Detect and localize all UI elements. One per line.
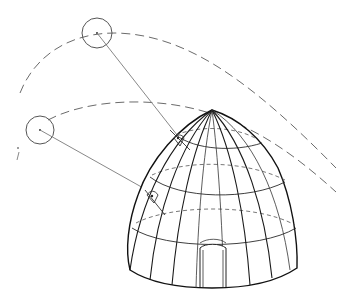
left-tick-mark: [17, 152, 19, 160]
door-frame: [200, 244, 226, 287]
dome-sun-diagram: [0, 0, 346, 299]
left-tick-dot: [17, 147, 19, 149]
dome: [128, 110, 297, 288]
dome-door: [200, 239, 226, 287]
ray-high-sun: [97, 33, 181, 140]
